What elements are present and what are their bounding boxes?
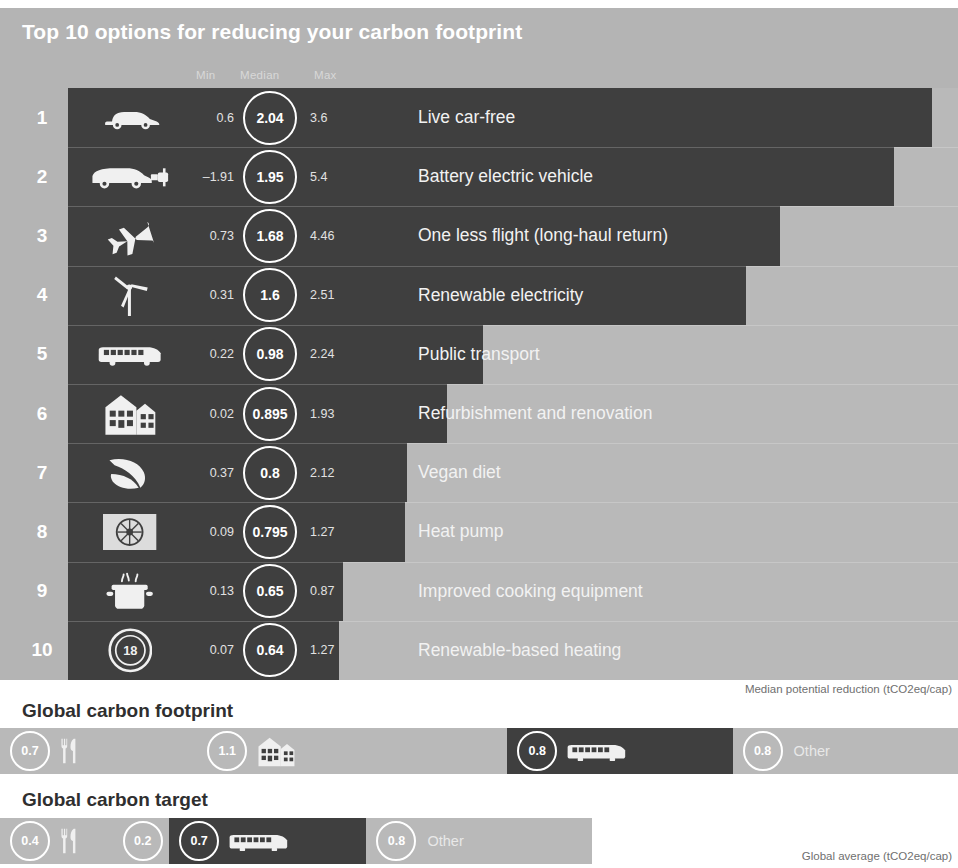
- car-icon: [78, 88, 182, 147]
- median-value-circle: 2.04: [243, 91, 297, 145]
- option-label: Battery electric vehicle: [418, 147, 593, 206]
- median-value-circle: 0.64: [243, 623, 297, 677]
- options-list: 10.62.043.6Live car-free2–1.911.955.4Bat…: [0, 88, 958, 680]
- column-header-median: Median: [240, 69, 280, 81]
- min-value: 0.73: [186, 206, 234, 265]
- rank-number: 7: [22, 443, 62, 502]
- cutlery-icon: [59, 737, 80, 765]
- wind-turbine-icon: [78, 266, 182, 325]
- heat-pump-icon: [78, 502, 182, 561]
- option-row: 70.370.82.12Vegan diet: [0, 443, 958, 502]
- rank-number: 5: [22, 325, 62, 384]
- option-row: 40.311.62.51Renewable electricity: [0, 266, 958, 325]
- global-footprint-bar: 0.71.10.80.8Other: [0, 728, 958, 774]
- cutlery-icon: [59, 827, 80, 855]
- max-value: 1.93: [310, 384, 362, 443]
- leaf-icon: [78, 443, 182, 502]
- stack-segment: 0.7: [0, 728, 197, 774]
- min-value: 0.07: [186, 621, 234, 680]
- bus-icon: [566, 741, 627, 762]
- option-label: Live car-free: [418, 88, 515, 147]
- median-value-circle: 0.98: [243, 327, 297, 381]
- median-reduction-caption: Median potential reduction (tCO2eq/cap): [745, 683, 952, 695]
- min-value: 0.31: [186, 266, 234, 325]
- column-header-max: Max: [314, 69, 337, 81]
- min-value: 0.02: [186, 384, 234, 443]
- min-value: –1.91: [186, 147, 234, 206]
- segment-value-bubble: 0.2: [123, 821, 163, 861]
- bus-icon: [228, 831, 289, 852]
- segment-value-bubble: 1.1: [207, 731, 247, 771]
- stack-segment: 0.7: [169, 818, 366, 864]
- column-header-min: Min: [196, 69, 215, 81]
- min-value: 0.6: [186, 88, 234, 147]
- top-10-panel: Top 10 options for reducing your carbon …: [0, 8, 958, 680]
- segment-value-bubble: 0.8: [376, 821, 416, 861]
- segment-value-bubble: 0.8: [743, 731, 783, 771]
- max-value: 4.46: [310, 206, 362, 265]
- house-icon: [78, 384, 182, 443]
- max-value: 1.27: [310, 502, 362, 561]
- option-row: 30.731.684.46One less flight (long-haul …: [0, 206, 958, 265]
- thermostat-icon: 18: [78, 621, 182, 680]
- rank-number: 9: [22, 562, 62, 621]
- median-value-circle: 1.6: [243, 268, 297, 322]
- min-value: 0.22: [186, 325, 234, 384]
- stack-segment: 0.8: [507, 728, 732, 774]
- airplane-icon: [78, 206, 182, 265]
- house-icon: [256, 734, 296, 767]
- option-row: 80.090.7951.27Heat pump: [0, 502, 958, 561]
- option-row: 90.130.650.87Improved cooking equipment: [0, 562, 958, 621]
- global-footprint-title: Global carbon footprint: [22, 700, 233, 722]
- option-label: Improved cooking equipment: [418, 562, 643, 621]
- rank-number: 6: [22, 384, 62, 443]
- rank-number: 1: [22, 88, 62, 147]
- rank-number: 2: [22, 147, 62, 206]
- segment-value-bubble: 0.7: [179, 821, 219, 861]
- segment-label: Other: [427, 833, 463, 849]
- segment-value-bubble: 0.4: [10, 821, 50, 861]
- max-value: 1.27: [310, 621, 362, 680]
- bus-icon: [78, 325, 182, 384]
- global-average-caption: Global average (tCO2eq/cap): [802, 850, 952, 862]
- segment-value-bubble: 0.8: [517, 731, 557, 771]
- option-row: 60.020.8951.93Refurbishment and renovati…: [0, 384, 958, 443]
- min-value: 0.37: [186, 443, 234, 502]
- option-row: 10180.070.641.27Renewable-based heating: [0, 621, 958, 680]
- median-value-circle: 0.895: [243, 387, 297, 441]
- option-row: 10.62.043.6Live car-free: [0, 88, 958, 147]
- max-value: 0.87: [310, 562, 362, 621]
- max-value: 2.24: [310, 325, 362, 384]
- max-value: 3.6: [310, 88, 362, 147]
- option-row: 50.220.982.24Public transport: [0, 325, 958, 384]
- median-value-circle: 0.795: [243, 505, 297, 559]
- stack-segment: 1.1: [197, 728, 507, 774]
- segment-value-bubble: 0.7: [10, 731, 50, 771]
- page-title: Top 10 options for reducing your carbon …: [22, 20, 522, 44]
- stack-segment: 0.8Other: [366, 818, 592, 864]
- rank-number: 8: [22, 502, 62, 561]
- stack-segment: 0.2: [113, 818, 169, 864]
- min-value: 0.09: [186, 502, 234, 561]
- option-label: Renewable-based heating: [418, 621, 621, 680]
- median-value-circle: 1.68: [243, 209, 297, 263]
- cooking-pot-icon: [78, 562, 182, 621]
- median-value-circle: 0.8: [243, 446, 297, 500]
- max-value: 2.51: [310, 266, 362, 325]
- option-label: Refurbishment and renovation: [418, 384, 652, 443]
- max-value: 5.4: [310, 147, 362, 206]
- median-value-circle: 0.65: [243, 564, 297, 618]
- electric-car-icon: [78, 147, 182, 206]
- option-label: Heat pump: [418, 502, 504, 561]
- median-value-circle: 1.95: [243, 150, 297, 204]
- global-target-bar: 0.40.20.70.8Other: [0, 818, 592, 864]
- segment-label: Other: [794, 743, 830, 759]
- stack-segment: 0.8Other: [733, 728, 958, 774]
- rank-number: 3: [22, 206, 62, 265]
- option-label: Vegan diet: [418, 443, 501, 502]
- stack-segment: 0.4: [0, 818, 113, 864]
- option-row: 2–1.911.955.4Battery electric vehicle: [0, 147, 958, 206]
- option-label: Public transport: [418, 325, 540, 384]
- option-label: Renewable electricity: [418, 266, 583, 325]
- global-target-title: Global carbon target: [22, 789, 208, 811]
